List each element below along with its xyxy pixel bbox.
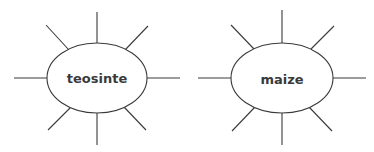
ray-lower-right	[124, 107, 146, 130]
ray-upper-left	[46, 25, 69, 50]
ray-lower-left	[48, 108, 70, 130]
ray-upper-right	[311, 26, 334, 49]
maize-label: maize	[260, 72, 303, 87]
ray-upper-left	[231, 25, 254, 49]
spider-diagrams-canvas	[0, 0, 374, 152]
ray-upper-right	[125, 26, 148, 50]
ray-lower-right	[309, 107, 332, 131]
teosinte-label: teosinte	[67, 71, 127, 86]
ray-lower-left	[232, 107, 255, 131]
